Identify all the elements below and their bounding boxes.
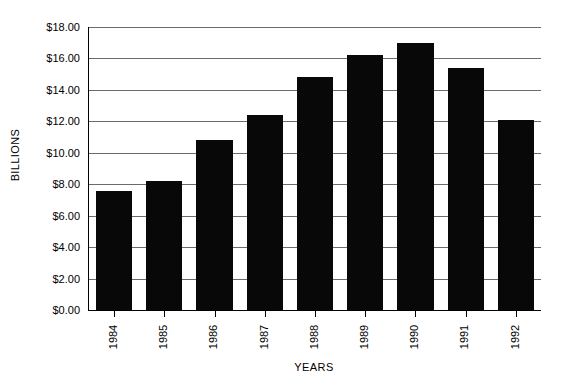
x-axis-tick-labels: 198419851986198719881989199019911992 [88,318,540,360]
bar-chart: BILLIONS $0.00$2.00$4.00$6.00$8.00$10.00… [0,0,565,385]
x-axis-tick-label-text: 1987 [258,325,270,349]
y-axis-tick-label: $10.00 [46,147,80,159]
bar-1990 [397,43,433,310]
x-axis-title: YEARS [88,361,540,373]
x-axis-tick-label-text: 1991 [459,325,471,349]
y-axis-tick-label: $6.00 [52,210,80,222]
y-axis-tick-label: $18.00 [46,21,80,33]
y-axis-title: BILLIONS [0,0,30,310]
y-axis-tick-label: $12.00 [46,115,80,127]
x-axis-tick [415,311,416,317]
x-axis-tick [265,311,266,317]
bar-1989 [347,55,383,310]
x-axis-tick [215,311,216,317]
bar-1988 [297,77,333,310]
x-axis-tick [164,311,165,317]
x-axis-tick [365,311,366,317]
x-axis-tick-label: 1986 [193,318,235,360]
x-axis-tick [114,311,115,317]
x-axis-tick-label-text: 1985 [157,325,169,349]
x-axis-tick-label: 1989 [343,318,385,360]
bars [89,27,541,310]
x-axis-tick-label-text: 1988 [308,325,320,349]
x-axis-tick-label: 1988 [293,318,335,360]
y-axis-tick-label: $16.00 [46,52,80,64]
x-axis-tick-label-text: 1984 [107,325,119,349]
plot-area [88,27,541,311]
y-axis-tick-labels: $0.00$2.00$4.00$6.00$8.00$10.00$12.00$14… [28,27,84,310]
x-axis-tick-label-text: 1989 [358,325,370,349]
x-axis-tick [315,311,316,317]
x-axis-tick-label: 1990 [393,318,435,360]
bar-1987 [247,115,283,310]
x-axis-tick-label-text: 1992 [509,325,521,349]
x-axis-tick-label: 1984 [92,318,134,360]
bar-1984 [96,191,132,310]
y-axis-tick-label: $14.00 [46,84,80,96]
x-axis-tick-label: 1992 [494,318,536,360]
x-axis-tick [466,311,467,317]
y-axis-tick-label: $2.00 [52,273,80,285]
bar-1986 [196,140,232,310]
bar-1992 [498,120,534,310]
x-axis-tick-label-text: 1986 [208,325,220,349]
y-axis-tick-label: $8.00 [52,178,80,190]
x-axis-tick [516,311,517,317]
bar-1985 [146,181,182,310]
y-axis-title-label: BILLIONS [9,129,21,182]
x-axis-tick-label: 1987 [243,318,285,360]
x-axis-tick-label: 1985 [142,318,184,360]
x-axis-tick-label: 1991 [444,318,486,360]
y-axis-tick-label: $0.00 [52,304,80,316]
y-axis-tick-label: $4.00 [52,241,80,253]
bar-1991 [448,68,484,310]
x-axis-tick-label-text: 1990 [408,325,420,349]
